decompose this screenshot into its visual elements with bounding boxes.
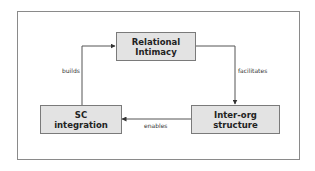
- edge-label-builds: builds: [62, 67, 80, 74]
- edge-label-enables: enables: [144, 122, 167, 129]
- node-label-line: Relational: [132, 37, 180, 47]
- arrows-layer: [0, 0, 315, 171]
- node-label-line: SC: [75, 110, 87, 120]
- node-label-line: Intimacy: [135, 47, 176, 57]
- node-relational-intimacy: Relational Intimacy: [116, 32, 196, 61]
- node-sc-integration: SC integration: [40, 105, 122, 134]
- facilitates-arrow: [195, 46, 235, 104]
- node-label-line: Inter-org: [214, 110, 257, 120]
- node-label-line: integration: [54, 120, 108, 130]
- builds-arrow: [82, 46, 115, 105]
- edge-label-facilitates: facilitates: [238, 67, 267, 74]
- node-inter-org-structure: Inter-org structure: [191, 105, 280, 134]
- node-label-line: structure: [213, 120, 257, 130]
